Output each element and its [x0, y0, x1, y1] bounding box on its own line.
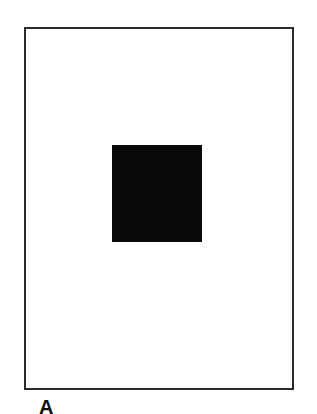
panel-label: A [39, 397, 53, 414]
black-square [112, 145, 202, 242]
